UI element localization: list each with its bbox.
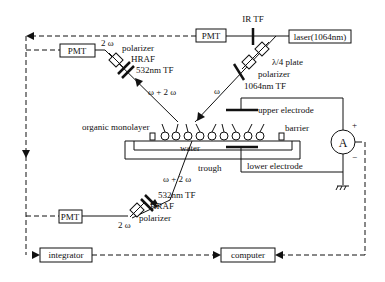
ammeter: A + − bbox=[331, 120, 362, 185]
trough-label: trough bbox=[198, 163, 222, 173]
ir-tf-label: IR TF bbox=[242, 14, 264, 24]
polarizer-bottom-label: polarizer bbox=[139, 213, 171, 223]
pmt-top-left-label: PMT bbox=[68, 46, 87, 56]
tf-532-bottom-label: 532nm TF bbox=[158, 190, 196, 200]
two-omega-top-label: 2 ω bbox=[101, 38, 114, 48]
integrator-label: integrator bbox=[49, 250, 84, 260]
lower-electrode-label: lower electrode bbox=[247, 161, 303, 171]
omega-plus-top-label: ω + 2 ω bbox=[148, 87, 176, 97]
water-label: water bbox=[180, 143, 200, 153]
polarizer-incident bbox=[242, 55, 256, 69]
omega-in-label: ω bbox=[214, 86, 220, 96]
polarizer-top-label: polarizer bbox=[122, 43, 154, 53]
pmt-top-left: PMT bbox=[60, 44, 95, 57]
tf-532-top-label: 532nm TF bbox=[136, 65, 174, 75]
upper-electrode-label: upper electrode bbox=[258, 105, 314, 115]
two-omega-bottom-label: 2 ω bbox=[118, 220, 131, 230]
trough bbox=[125, 141, 300, 159]
tf-1064-label: 1064nm TF bbox=[244, 81, 286, 91]
integrator-box: integrator bbox=[40, 248, 92, 262]
pmt-bottom-label: PMT bbox=[61, 212, 80, 222]
pmt-top-right: PMT bbox=[196, 29, 226, 42]
ammeter-minus: − bbox=[352, 152, 357, 162]
omega-plus-bottom-label: ω + 2 ω bbox=[163, 174, 191, 184]
hraf-top-label: HRAF bbox=[131, 54, 155, 64]
organic-monolayer-label: organic monolayer bbox=[82, 122, 150, 132]
ammeter-plus: + bbox=[352, 120, 357, 130]
barrier-label: barrier bbox=[285, 123, 309, 133]
organic-monolayer bbox=[161, 124, 264, 140]
polarizer-top bbox=[109, 53, 123, 67]
ammeter-label: A bbox=[339, 136, 348, 150]
barrier-right bbox=[279, 133, 284, 140]
computer-box: computer bbox=[221, 248, 275, 262]
polarizer-in-label: polarizer bbox=[258, 69, 290, 79]
lambda-quarter-plate bbox=[255, 42, 269, 56]
lambda-plate-label: λ/4 plate bbox=[272, 57, 303, 67]
sfg-experimental-setup-diagram: PMT IR TF laser(1064nm) λ/4 plate polari… bbox=[0, 0, 385, 282]
pmt-top-right-label: PMT bbox=[202, 31, 221, 41]
laser-label: laser(1064nm) bbox=[294, 32, 346, 42]
barrier-left bbox=[150, 133, 155, 140]
computer-label: computer bbox=[231, 250, 265, 260]
ground-icon bbox=[336, 186, 349, 190]
laser-source: laser(1064nm) bbox=[289, 30, 351, 43]
pmt-bottom: PMT bbox=[59, 210, 82, 223]
hraf-bottom-label: HRAF bbox=[150, 201, 174, 211]
